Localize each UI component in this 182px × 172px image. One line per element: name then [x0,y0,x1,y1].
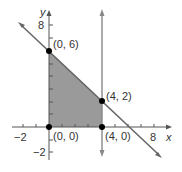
point-label-4-0: (4, 0) [105,130,131,142]
x-axis-arrow-icon [166,125,172,130]
x-tick-label-neg2: −2 [14,131,27,143]
y-axis-arrow-icon [47,10,52,16]
point-4-2 [99,98,105,104]
x-axis-label: x [165,131,172,143]
point-0-0 [46,124,52,130]
x-tick-label-8: 8 [150,131,156,143]
point-label-0-6: (0, 6) [53,38,79,50]
y-axis-label: y [39,6,47,18]
line-x-plus-y-equals-6 [21,25,158,154]
vertical-line-arrow-bottom-icon [100,150,105,157]
y-tick-label-neg2: −2 [33,146,46,158]
linear-programming-graph: y 8 −2 −2 8 x (0, 6) (4, 2) (0, 0) (4, 0… [0,0,182,172]
point-label-0-0: (0, 0) [53,130,79,142]
feasible-region [49,51,102,127]
y-tick-label-8: 8 [38,19,44,31]
vertical-line-arrow-top-icon [100,9,105,16]
point-label-4-2: (4, 2) [106,90,132,102]
point-0-6 [46,48,52,54]
